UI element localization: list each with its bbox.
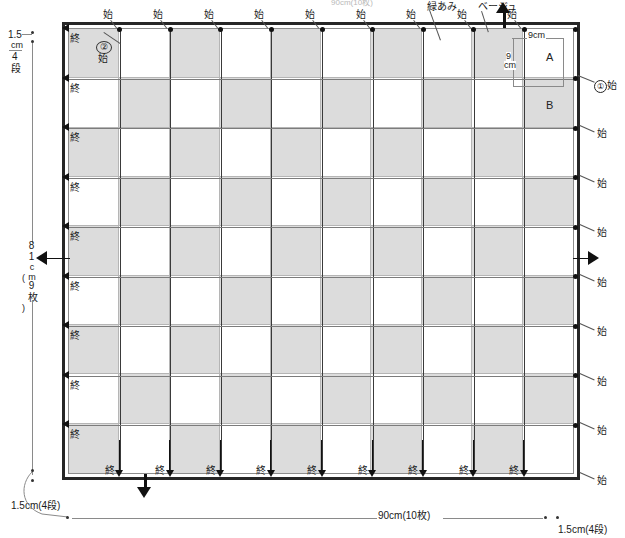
grid-cell bbox=[422, 29, 472, 78]
right-start-leader bbox=[580, 125, 595, 132]
grid-cell bbox=[371, 374, 421, 423]
grid-column-rule bbox=[221, 29, 222, 473]
right-start-label: 始 bbox=[597, 278, 607, 288]
top-start-label: 始 bbox=[406, 10, 416, 20]
bottom-end-arrow bbox=[469, 470, 477, 477]
right-start-label: 始 bbox=[597, 179, 607, 189]
bottom-end-arrow-shaft bbox=[119, 440, 120, 472]
left-end-label: 終 bbox=[70, 282, 80, 292]
bottom-end-arrow-shaft bbox=[372, 440, 373, 472]
left-end-label: 終 bbox=[70, 232, 80, 242]
direction-arrow-right bbox=[588, 251, 599, 265]
grid-row-rule bbox=[69, 178, 573, 179]
grid-cell bbox=[472, 29, 522, 78]
grid-cell bbox=[523, 177, 573, 226]
left-end-arrow bbox=[62, 24, 69, 32]
grid-cell bbox=[119, 128, 169, 177]
start-point-dot-top bbox=[471, 27, 476, 32]
dim-bottom-line-left bbox=[72, 518, 377, 519]
grid-cell bbox=[119, 78, 169, 127]
grid-cell bbox=[523, 276, 573, 325]
grid-column-rule bbox=[524, 29, 525, 473]
grid-cell bbox=[371, 276, 421, 325]
grid-cell bbox=[422, 276, 472, 325]
start-point-dot-top bbox=[573, 27, 578, 32]
left-end-label: 終 bbox=[70, 381, 80, 391]
bottom-end-arrow bbox=[166, 470, 174, 477]
right-start-label: 始 bbox=[597, 228, 607, 238]
grid-row-rule bbox=[69, 128, 573, 129]
grid-row-rule bbox=[69, 277, 573, 278]
bottom-end-arrow-shaft bbox=[321, 440, 322, 472]
start-point-dot-right bbox=[573, 225, 578, 230]
grid-cell bbox=[523, 226, 573, 275]
grid-cell bbox=[371, 78, 421, 127]
grid-cell bbox=[523, 424, 573, 473]
grid-cell bbox=[119, 29, 169, 78]
left-end-arrow bbox=[62, 173, 69, 181]
dim-bottom-tick-left bbox=[66, 516, 69, 519]
dim-topleft-rows-unit: 段 bbox=[11, 64, 21, 74]
dim-bottom-width-label: 90cm(10枚) bbox=[378, 511, 430, 521]
dim-topleft-rows: 4 bbox=[12, 52, 18, 62]
start-one-marker: ①始 bbox=[594, 80, 617, 93]
grid-cell bbox=[321, 78, 371, 127]
grid-cell bbox=[220, 325, 270, 374]
dim-bottomright-tick bbox=[556, 516, 559, 519]
bottom-end-arrow-shaft bbox=[169, 440, 170, 472]
grid-cell bbox=[271, 226, 321, 275]
start-point-dot-right bbox=[573, 175, 578, 180]
start-one-label: 始 bbox=[607, 80, 617, 91]
left-end-label: 終 bbox=[70, 183, 80, 193]
grid-cell bbox=[321, 128, 371, 177]
grid-cell bbox=[271, 325, 321, 374]
grid-cell bbox=[119, 374, 169, 423]
grid-cell bbox=[220, 177, 270, 226]
dim-topleft-leader bbox=[22, 34, 32, 35]
bottom-end-label: 終 bbox=[358, 466, 368, 476]
grid-cell bbox=[523, 325, 573, 374]
grid-row-rule bbox=[69, 425, 573, 426]
left-end-arrow bbox=[62, 420, 69, 428]
right-start-label: 始 bbox=[597, 377, 607, 387]
bottom-end-arrow bbox=[318, 470, 326, 477]
grid-cell bbox=[422, 177, 472, 226]
bottom-end-label: 終 bbox=[105, 466, 115, 476]
grid-cell bbox=[119, 325, 169, 374]
grid-cell bbox=[170, 29, 220, 78]
cell-a-height-label-2: cm bbox=[504, 61, 516, 70]
grid-cell bbox=[170, 276, 220, 325]
grid-cell bbox=[371, 29, 421, 78]
direction-arrow-left bbox=[36, 251, 47, 265]
top-start-label: 始 bbox=[254, 10, 264, 20]
right-start-leader bbox=[580, 175, 595, 182]
grid-cell bbox=[523, 128, 573, 177]
bottom-end-arrow bbox=[520, 470, 528, 477]
left-end-label: 終 bbox=[70, 331, 80, 341]
start-point-dot-top bbox=[269, 27, 274, 32]
right-start-leader bbox=[580, 274, 595, 281]
grid-cell bbox=[170, 325, 220, 374]
top-start-label: 始 bbox=[103, 10, 113, 20]
right-start-leader bbox=[580, 323, 595, 330]
bottom-end-arrow-shaft bbox=[422, 440, 423, 472]
grid-cell bbox=[321, 177, 371, 226]
diagram-canvas: 90cm(10枚) A B ② 始 始始始始始始始始始 緑あみ ベージュ 9cm… bbox=[0, 0, 625, 538]
left-end-arrow bbox=[62, 123, 69, 131]
left-end-arrow bbox=[62, 321, 69, 329]
grid-cell bbox=[170, 374, 220, 423]
grid-cell bbox=[119, 177, 169, 226]
grid-cell bbox=[220, 374, 270, 423]
left-end-label: 終 bbox=[70, 133, 80, 143]
start-point-dot-top bbox=[421, 27, 426, 32]
start-point-dot-top bbox=[370, 27, 375, 32]
start-two-number: ② bbox=[100, 43, 108, 52]
grid-cell bbox=[119, 276, 169, 325]
start-point-dot-right bbox=[573, 423, 578, 428]
dim-left-height-count: 9 bbox=[26, 280, 36, 291]
grid-cell bbox=[371, 226, 421, 275]
direction-arrow-down bbox=[137, 487, 151, 498]
bottom-end-arrow bbox=[267, 470, 275, 477]
dim-topleft-tick-1 bbox=[31, 31, 34, 34]
grid-cell bbox=[422, 325, 472, 374]
